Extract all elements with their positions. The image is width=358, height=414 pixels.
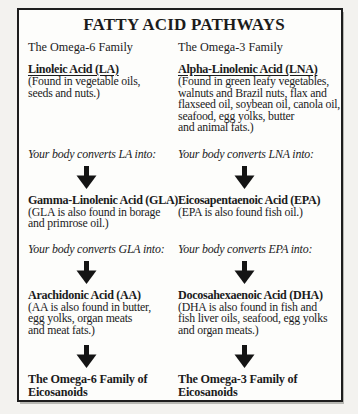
dha-description: (DHA is also found in fish and fish live… — [178, 302, 340, 337]
converts-epa-note: Your body converts EPA into: — [178, 243, 340, 255]
omega3-eicosanoids-label: The Omega-3 Family of Eicosanoids — [178, 373, 340, 398]
epa-description: (EPA is also found fish oil.) — [178, 207, 340, 219]
down-arrow-icon — [178, 261, 340, 284]
aa-block: Arachidonic Acid (AA) (AA is also found … — [28, 289, 178, 337]
alpha-linolenic-acid-block: Alpha-Linolenic Acid (LNA) (Found in gre… — [178, 63, 340, 134]
converts-lna-note: Your body converts LNA into: — [178, 148, 340, 160]
linoleic-acid-block: Linoleic Acid (LA) (Found in vegetable o… — [28, 63, 178, 134]
linoleic-acid-description: (Found in vegetable oils, seeds and nuts… — [28, 76, 178, 99]
down-arrow-icon — [178, 166, 340, 189]
aa-description: (AA is also found in butter, egg yolks, … — [28, 302, 178, 337]
pathways-grid: FATTY ACID PATHWAYS The Omega-6 Family T… — [28, 15, 338, 398]
gla-block: Gamma-Linolenic Acid (GLA) (GLA is also … — [28, 194, 178, 230]
omega6-family-label: The Omega-6 Family — [28, 41, 178, 53]
epa-block: Eicosapentaenoic Acid (EPA) (EPA is also… — [178, 194, 340, 230]
alpha-linolenic-acid-description: (Found in green leafy vegetables, walnut… — [178, 76, 340, 134]
pathways-panel: FATTY ACID PATHWAYS The Omega-6 Family T… — [17, 8, 343, 402]
converts-la-note: Your body converts LA into: — [28, 148, 178, 160]
down-arrow-icon — [178, 345, 340, 368]
gla-description: (GLA is also found in borage and primros… — [28, 207, 178, 230]
omega6-eicosanoids-label: The Omega-6 Family of Eicosanoids — [28, 373, 178, 398]
down-arrow-icon — [28, 261, 178, 284]
down-arrow-icon — [28, 166, 178, 189]
omega3-family-label: The Omega-3 Family — [178, 41, 340, 53]
converts-gla-note: Your body converts GLA into: — [28, 243, 178, 255]
down-arrow-icon — [28, 345, 178, 368]
dha-block: Docosahexaenoic Acid (DHA) (DHA is also … — [178, 289, 340, 337]
page-title: FATTY ACID PATHWAYS — [28, 15, 340, 34]
